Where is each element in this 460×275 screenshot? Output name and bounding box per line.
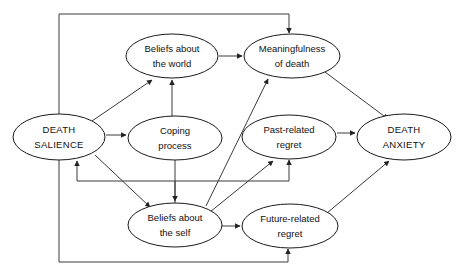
node-death-salience-shape[interactable] [13, 114, 105, 160]
node-beliefs-about-the-world-label-line1: Beliefs about [145, 43, 200, 54]
node-death-anxiety[interactable]: DEATH ANXIETY [357, 114, 451, 160]
node-coping-process[interactable]: Coping process [128, 116, 222, 160]
node-layer: DEATH SALIENCE Beliefs about the world M… [13, 34, 451, 248]
node-past-related-regret[interactable]: Past-related regret [242, 115, 336, 159]
node-beliefs-about-the-world-label-line2: the world [153, 58, 192, 69]
node-future-related-regret[interactable]: Future-related regret [242, 204, 338, 248]
node-meaningfulness-of-death[interactable]: Meaningfulness of death [244, 34, 340, 78]
node-death-anxiety-label-line2: ANXIETY [383, 139, 426, 150]
node-past-related-regret-label-line1: Past-related [263, 124, 314, 135]
node-beliefs-about-the-self-label-line1: Beliefs about [148, 212, 203, 223]
node-death-anxiety-shape[interactable] [357, 114, 451, 160]
node-meaningfulness-of-death-shape[interactable] [244, 34, 340, 78]
diagram-svg: DEATH SALIENCE Beliefs about the world M… [0, 0, 460, 275]
node-coping-process-shape[interactable] [128, 116, 222, 160]
node-beliefs-about-the-self[interactable]: Beliefs about the self [128, 203, 222, 247]
node-death-salience-label-line2: SALIENCE [34, 139, 83, 150]
node-coping-process-label-line2: process [158, 140, 192, 151]
edge-meaningfulness-of-death-to-death-anxiety [325, 72, 388, 119]
node-future-related-regret-label-line1: Future-related [260, 213, 320, 224]
diagram-canvas: DEATH SALIENCE Beliefs about the world M… [0, 0, 460, 275]
node-beliefs-about-the-self-shape[interactable] [128, 203, 222, 247]
edge-future-related-regret-to-death-anxiety [327, 161, 389, 213]
node-future-related-regret-label-line2: regret [278, 228, 303, 239]
node-future-related-regret-shape[interactable] [242, 204, 338, 248]
node-coping-process-label-line1: Coping [160, 125, 190, 136]
node-beliefs-about-the-self-label-line2: the self [160, 227, 191, 238]
node-meaningfulness-of-death-label-line2: of death [275, 58, 309, 69]
node-death-salience-label-line1: DEATH [43, 124, 76, 135]
edge-death-salience-to-beliefs-about-the-world [92, 80, 152, 121]
node-death-anxiety-label-line1: DEATH [388, 124, 421, 135]
edge-beliefs-about-the-self-to-past-related-regret [210, 161, 273, 212]
node-beliefs-about-the-world[interactable]: Beliefs about the world [126, 34, 218, 78]
node-past-related-regret-label-line2: regret [277, 139, 302, 150]
node-meaningfulness-of-death-label-line1: Meaningfulness [259, 43, 326, 54]
node-past-related-regret-shape[interactable] [242, 115, 336, 159]
node-beliefs-about-the-world-shape[interactable] [126, 34, 218, 78]
edge-layer [59, 14, 389, 262]
node-death-salience[interactable]: DEATH SALIENCE [13, 114, 105, 160]
